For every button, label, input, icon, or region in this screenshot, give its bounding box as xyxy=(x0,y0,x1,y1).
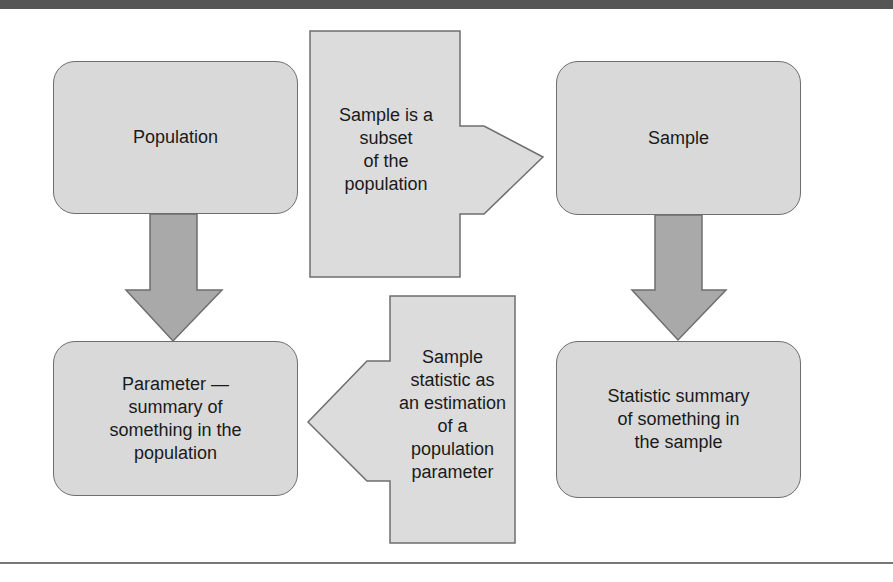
subset-callout-label: Sample is a subset of the population xyxy=(339,104,433,196)
bottom-rule xyxy=(0,562,893,564)
estimation-callout-label: Sample statistic as an estimation of a p… xyxy=(399,346,506,484)
population-label: Population xyxy=(133,126,218,149)
estimation-callout-text: Sample statistic as an estimation of a p… xyxy=(390,330,515,500)
population-node: Population xyxy=(53,61,298,214)
sample-label: Sample xyxy=(648,127,709,150)
statistic-node: Statistic summary of something in the sa… xyxy=(556,341,801,498)
statistic-label: Statistic summary of something in the sa… xyxy=(607,385,749,454)
sample-node: Sample xyxy=(556,61,801,215)
parameter-label: Parameter — summary of something in the … xyxy=(109,373,241,465)
down-arrow-sample xyxy=(632,215,726,340)
parameter-node: Parameter — summary of something in the … xyxy=(53,341,298,496)
down-arrow-population xyxy=(126,214,222,341)
subset-callout-text: Sample is a subset of the population xyxy=(312,80,460,220)
